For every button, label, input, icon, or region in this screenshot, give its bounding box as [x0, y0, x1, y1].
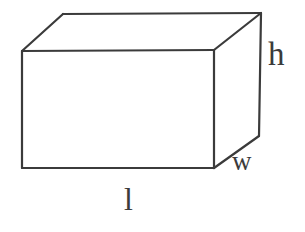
prism-top-face — [22, 13, 261, 51]
back-right-vertical-edge — [259, 13, 261, 136]
width-label: w — [232, 148, 252, 175]
top-left-receding-edge — [22, 14, 63, 51]
top-right-receding-edge — [214, 13, 261, 50]
front-top-edge — [22, 50, 214, 51]
back-top-edge — [63, 13, 261, 14]
prism-front-face — [22, 50, 214, 168]
figure-canvas: h w l — [0, 0, 305, 232]
prism-right-face — [214, 13, 261, 168]
height-label: h — [268, 38, 285, 71]
rectangular-prism-diagram — [0, 0, 305, 232]
length-label: l — [124, 183, 133, 215]
